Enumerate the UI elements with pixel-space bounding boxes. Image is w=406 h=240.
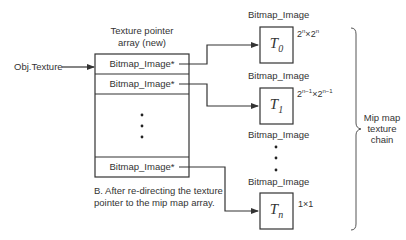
level-2-header: Bitmap_Image <box>248 129 309 140</box>
level-0-size: 2n×2n <box>297 28 319 39</box>
array-row-0: Bitmap_Image* <box>95 58 189 69</box>
array-title-line1: Texture pointer <box>95 25 189 37</box>
texture-t1-label: T1 <box>260 96 293 115</box>
brace-label-line2: texture <box>362 123 402 134</box>
brace-label-line1: Mip map <box>362 112 402 123</box>
caption: B. After re-directing the texture pointe… <box>94 185 223 209</box>
texture-tn-label: Tn <box>260 201 293 220</box>
level-n-header: Bitmap_Image <box>248 176 309 187</box>
chain-brace-icon <box>351 28 361 230</box>
level-n-size: 1×1 <box>298 199 313 209</box>
array-title-line2: array (new) <box>95 37 189 49</box>
level-1-header: Bitmap_Image <box>248 70 309 81</box>
level-1-size: 2n−1×2n−1 <box>297 88 333 99</box>
array-ellipsis-icon <box>141 114 144 139</box>
pointer-arrow-t1 <box>179 84 258 106</box>
texture-t0-label: T0 <box>260 35 293 54</box>
brace-label-line3: chain <box>362 134 402 145</box>
array-row-1: Bitmap_Image* <box>95 78 189 89</box>
caption-line2: pointer to the mip map array. <box>94 197 223 209</box>
mip-map-chain-label: Mip map texture chain <box>362 112 402 145</box>
array-row-last: Bitmap_Image* <box>95 161 189 172</box>
chain-ellipsis-icon <box>275 146 278 172</box>
caption-line1: B. After re-directing the texture <box>94 185 223 197</box>
pointer-arrow-t0 <box>179 45 258 64</box>
level-0-header: Bitmap_Image <box>248 9 309 20</box>
obj-texture-label: Obj.Texture <box>14 61 63 72</box>
array-title: Texture pointer array (new) <box>95 25 189 49</box>
